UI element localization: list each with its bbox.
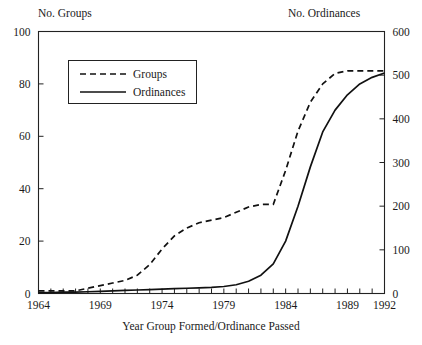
y2-axis-tick-labels: 0100200300400500600 bbox=[393, 26, 411, 300]
y2-tick-label: 100 bbox=[393, 244, 411, 256]
series-ordinances bbox=[39, 73, 385, 293]
x-axis-title: Year Group Formed/Ordinance Passed bbox=[122, 320, 300, 333]
line-chart: No. Groups No. Ordinances 19641969197419… bbox=[0, 0, 422, 345]
y2-tick-label: 400 bbox=[393, 113, 411, 125]
y2-tick-label: 300 bbox=[393, 157, 411, 169]
y2-tick-label: 0 bbox=[393, 288, 399, 300]
y-tick-label: 60 bbox=[19, 130, 31, 142]
x-tick-label: 1964 bbox=[27, 299, 50, 311]
y2-tick-label: 200 bbox=[393, 200, 411, 212]
left-axis-caption: No. Groups bbox=[38, 7, 92, 20]
y-tick-label: 40 bbox=[19, 183, 31, 195]
x-tick-label: 1992 bbox=[373, 299, 396, 311]
x-tick-label: 1974 bbox=[151, 299, 174, 311]
x-tick-label: 1969 bbox=[89, 299, 112, 311]
y2-tick-label: 500 bbox=[393, 69, 411, 81]
right-axis-caption: No. Ordinances bbox=[288, 7, 361, 19]
y2-axis-ticks bbox=[380, 75, 385, 250]
y-tick-label: 80 bbox=[19, 78, 31, 90]
x-axis-tick-labels: 1964196919741979198419891992 bbox=[27, 299, 396, 311]
y2-tick-label: 600 bbox=[393, 26, 411, 38]
legend-label-groups: Groups bbox=[133, 68, 167, 81]
y-axis-tick-labels: 020406080100 bbox=[13, 26, 31, 300]
y-tick-label: 100 bbox=[13, 26, 31, 38]
x-tick-label: 1989 bbox=[336, 299, 359, 311]
chart-legend: Groups Ordinances bbox=[69, 61, 197, 104]
y-tick-label: 20 bbox=[19, 235, 31, 247]
y-tick-label: 0 bbox=[25, 288, 31, 300]
y-axis-ticks bbox=[39, 84, 44, 241]
x-tick-label: 1979 bbox=[212, 299, 235, 311]
chart-page: No. Groups No. Ordinances 19641969197419… bbox=[0, 0, 422, 345]
data-series-group bbox=[39, 71, 385, 293]
x-tick-label: 1984 bbox=[274, 299, 297, 311]
legend-label-ordinances: Ordinances bbox=[133, 86, 186, 98]
